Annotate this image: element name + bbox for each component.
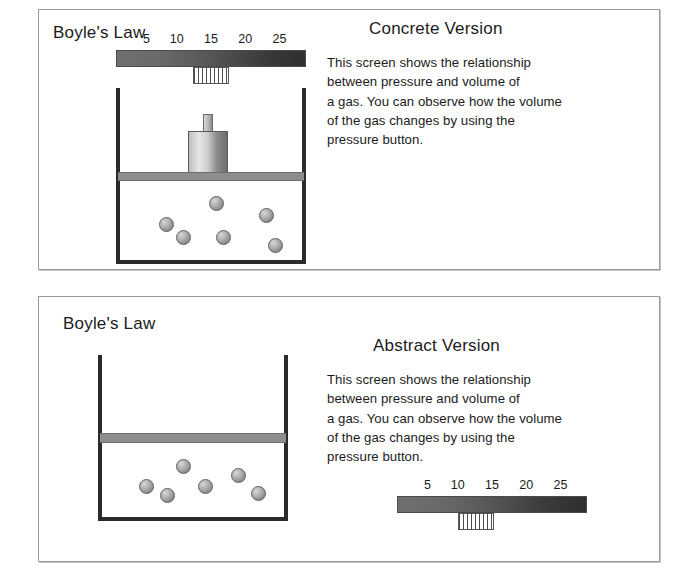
gas-molecule	[160, 488, 175, 503]
body-text-concrete: This screen shows the relationship betwe…	[327, 53, 647, 149]
slider-tick-25: 25	[553, 478, 567, 492]
piston-plate-abstract[interactable]	[100, 433, 286, 443]
slider-tick-15: 15	[204, 32, 218, 46]
gas-container-concrete	[116, 88, 306, 264]
slider-track-abstract[interactable]	[397, 496, 587, 513]
gas-molecule	[139, 479, 154, 494]
slider-tick-10: 10	[170, 32, 184, 46]
slider-tick-10: 10	[451, 478, 465, 492]
slider-scale-abstract: 5 10 15 20 25	[397, 478, 587, 494]
gas-molecule	[251, 486, 266, 501]
panel-abstract-version: Boyle's Law Abstract Version This screen…	[38, 296, 660, 562]
body-text-abstract: This screen shows the relationship betwe…	[327, 370, 647, 466]
screen-title-abstract: Boyle's Law	[63, 314, 155, 334]
slider-tick-5: 5	[143, 32, 150, 46]
slider-tick-20: 20	[519, 478, 533, 492]
slider-tick-25: 25	[272, 32, 286, 46]
slider-track-concrete[interactable]	[116, 50, 306, 67]
gas-molecule	[198, 479, 213, 494]
slider-tick-15: 15	[485, 478, 499, 492]
gas-molecule	[176, 459, 191, 474]
version-title-concrete: Concrete Version	[369, 19, 503, 39]
slider-thumb-abstract[interactable]	[458, 513, 494, 530]
gas-molecule	[209, 196, 224, 211]
piston-plate-concrete[interactable]	[118, 172, 304, 181]
container-floor	[98, 517, 288, 521]
slider-scale-concrete: 5 10 15 20 25	[116, 32, 306, 48]
slider-thumb-concrete[interactable]	[193, 67, 229, 84]
panel-concrete-version: Boyle's Law Concrete Version This screen…	[38, 9, 660, 270]
container-floor	[116, 260, 306, 264]
gas-molecule	[268, 238, 283, 253]
pressure-slider-concrete[interactable]: 5 10 15 20 25	[116, 32, 306, 82]
pressure-slider-abstract[interactable]: 5 10 15 20 25	[397, 478, 587, 528]
version-title-abstract: Abstract Version	[373, 336, 500, 356]
slider-tick-5: 5	[424, 478, 431, 492]
gas-molecule	[259, 208, 274, 223]
gas-molecule	[231, 468, 246, 483]
gas-container-abstract	[98, 355, 288, 521]
weight-block-icon	[188, 131, 228, 173]
slider-tick-20: 20	[238, 32, 252, 46]
gas-molecule	[159, 217, 174, 232]
gas-molecule	[216, 230, 231, 245]
gas-molecule	[176, 230, 191, 245]
boyles-law-figure: Boyle's Law Concrete Version This screen…	[0, 0, 688, 588]
